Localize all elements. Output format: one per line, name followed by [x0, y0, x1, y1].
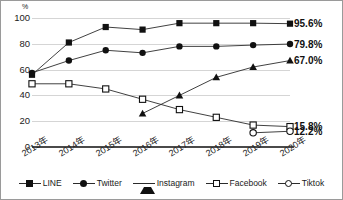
legend-marker-line-icon [19, 179, 41, 188]
data-point-twitter [213, 43, 219, 49]
end-value-twitter: 79.8% [294, 39, 322, 50]
data-point-twitter [29, 70, 35, 76]
data-point-line [287, 21, 293, 27]
legend-marker-facebook-icon [206, 179, 228, 188]
data-point-line [66, 39, 72, 45]
data-point-instagram [139, 110, 147, 117]
legend-label: Facebook [230, 179, 267, 188]
data-point-instagram [286, 57, 294, 64]
data-point-instagram [176, 92, 184, 99]
legend-item-line[interactable]: LINE [19, 179, 62, 188]
y-axis-tick-label: 20 [2, 116, 30, 126]
line-chart: % 020406080100 2013年2014年2015年2016年2017年… [0, 0, 343, 200]
legend-label: Twitter [97, 179, 122, 188]
y-axis-tick-label: 80 [2, 39, 30, 49]
data-point-facebook [29, 81, 35, 87]
data-point-line [139, 27, 145, 33]
end-value-instagram: 67.0% [294, 55, 322, 66]
data-point-tiktok [287, 128, 293, 134]
data-point-twitter [287, 41, 293, 47]
legend-marker-tiktok-icon [278, 179, 300, 188]
data-point-line [250, 20, 256, 26]
series-line-facebook [32, 84, 290, 127]
legend-item-tiktok[interactable]: Tiktok [278, 179, 324, 188]
end-value-line: 95.6% [294, 18, 322, 29]
chart-legend: LINETwitterInstagramFacebookTiktok [1, 179, 342, 188]
data-point-facebook [213, 114, 219, 120]
end-value-tiktok: 12.2% [294, 126, 322, 137]
data-point-facebook [103, 86, 109, 92]
data-point-line [213, 20, 219, 26]
data-point-twitter [250, 42, 256, 48]
legend-label: Instagram [157, 179, 195, 188]
legend-label: Tiktok [302, 179, 324, 188]
data-point-facebook [250, 122, 256, 128]
series-layer [32, 18, 290, 147]
data-point-twitter [139, 50, 145, 56]
legend-label: LINE [43, 179, 62, 188]
data-point-facebook [139, 96, 145, 102]
legend-marker-twitter-icon [73, 179, 95, 188]
legend-marker-instagram-icon [133, 179, 155, 188]
data-point-facebook [176, 106, 182, 112]
y-axis-tick-label: 100 [2, 13, 30, 23]
data-point-twitter [176, 43, 182, 49]
y-axis: 020406080100 [1, 1, 30, 200]
series-line-tiktok [253, 131, 290, 133]
data-point-line [176, 20, 182, 26]
y-axis-tick-label: 60 [2, 65, 30, 75]
legend-item-twitter[interactable]: Twitter [73, 179, 122, 188]
legend-item-instagram[interactable]: Instagram [133, 179, 195, 188]
data-point-twitter [66, 57, 72, 63]
data-point-facebook [66, 81, 72, 87]
y-axis-tick-label: 40 [2, 90, 30, 100]
legend-item-facebook[interactable]: Facebook [206, 179, 267, 188]
data-point-twitter [103, 47, 109, 53]
data-point-tiktok [250, 130, 256, 136]
data-point-line [103, 24, 109, 30]
